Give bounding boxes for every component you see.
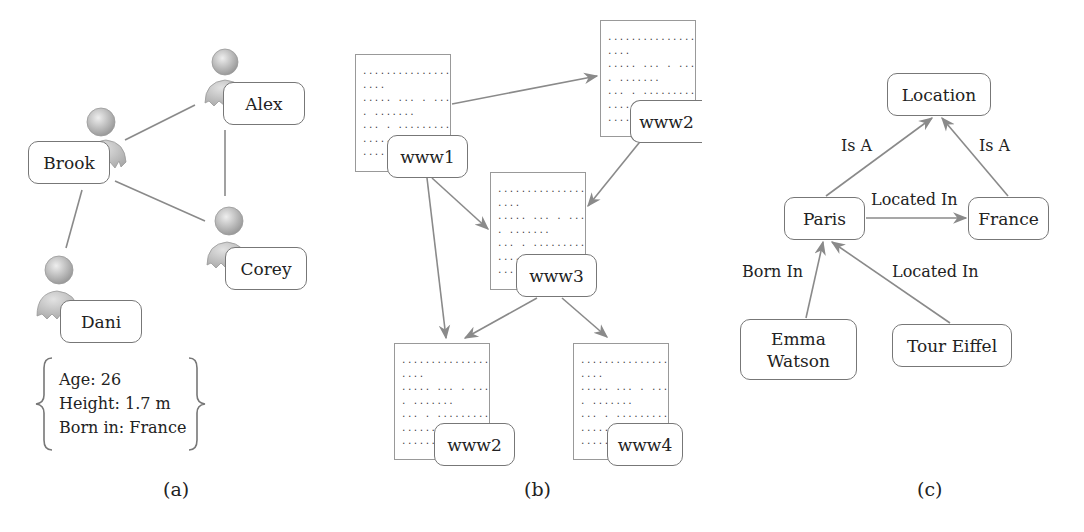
person-node-brook: Brook <box>28 141 110 184</box>
entity-node-emma-watson: Emma Watson <box>740 319 857 380</box>
edge-label-paris-france: Located In <box>871 190 958 209</box>
attribute-height: Height: 1.7 m <box>59 392 186 416</box>
edge-label-france-isa: Is A <box>979 136 1010 155</box>
web-page-www2-bottom-label: www2 <box>434 423 515 466</box>
web-page-www3-label: www3 <box>516 254 597 297</box>
caption-b: (b) <box>524 478 551 500</box>
entity-node-tour-eiffel: Tour Eiffel <box>892 324 1012 367</box>
edge-label-paris-isa: Is A <box>841 136 872 155</box>
person-node-alex: Alex <box>223 82 305 125</box>
entity-node-france: France <box>968 197 1049 240</box>
web-page-www1-label: www1 <box>387 135 468 178</box>
edge-label-tour-paris: Located In <box>892 262 979 281</box>
person-node-dani: Dani <box>60 300 142 343</box>
web-page-www4-label: www4 <box>607 423 683 466</box>
attribute-age: Age: 26 <box>59 368 186 392</box>
caption-c: (c) <box>917 478 942 500</box>
caption-a: (a) <box>163 478 189 500</box>
person-attributes: Age: 26 Height: 1.7 m Born in: France <box>59 368 186 440</box>
person-node-corey: Corey <box>225 247 307 290</box>
edge-label-emma-paris: Born In <box>742 262 803 281</box>
entity-node-location: Location <box>887 73 991 116</box>
web-page-www2-top-label: www2 <box>630 100 702 143</box>
attribute-born: Born in: France <box>59 416 186 440</box>
entity-node-paris: Paris <box>784 197 865 240</box>
